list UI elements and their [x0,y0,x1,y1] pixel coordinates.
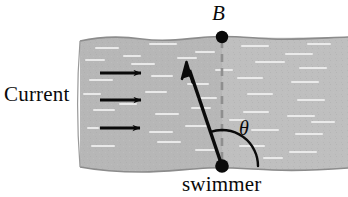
river-swimmer-diagram: Current B θ swimmer [0,0,348,197]
water-streak-texture [80,36,348,172]
water-region [78,36,348,172]
swimmer-dot [215,159,229,173]
diagram-canvas [0,0,348,197]
water-left-edge [78,41,80,167]
point-b-dot [216,31,228,43]
